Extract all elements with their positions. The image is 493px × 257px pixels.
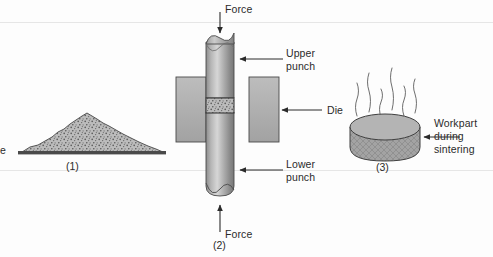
die-block-left <box>176 77 206 142</box>
label-die: Die <box>327 104 343 117</box>
stage-1-powder-pile <box>18 113 166 154</box>
diagram-artwork <box>0 0 493 257</box>
label-force-bottom: Force <box>225 228 252 241</box>
label-force-top: Force <box>225 3 252 16</box>
label-lower-punch-line2: punch <box>286 171 315 184</box>
label-workpart-line2: during <box>434 130 464 143</box>
lower-punch-shaft <box>206 112 234 196</box>
label-lower-punch-line1: Lower <box>286 158 315 171</box>
label-workpart-line3: sintering <box>434 143 475 156</box>
compacted-powder <box>206 98 234 113</box>
label-powder-cutoff: e <box>0 144 6 157</box>
die-block-right <box>249 77 279 142</box>
stage-number-1: (1) <box>66 160 79 172</box>
workpart-cylinder-top <box>350 114 420 140</box>
label-upper-punch-line2: punch <box>286 60 315 73</box>
upper-punch-top-cap <box>206 33 234 44</box>
label-workpart-line1: Workpart <box>434 117 477 130</box>
powder-metallurgy-figure: Force Force Upper punch Die Lower punch … <box>0 0 493 257</box>
powder-base-line <box>18 151 166 154</box>
upper-punch-shaft <box>206 42 234 98</box>
label-upper-punch-line1: Upper <box>286 47 315 60</box>
stage-number-2: (2) <box>213 239 226 251</box>
stage-number-3: (3) <box>376 161 389 173</box>
heat-lines <box>356 68 417 117</box>
stage-2-press-assembly <box>176 12 322 232</box>
